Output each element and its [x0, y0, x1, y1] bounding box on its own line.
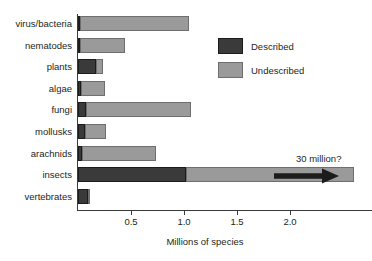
bar-row [0, 102, 372, 117]
bar-segment-undescribed [88, 189, 90, 204]
x-tick [237, 210, 238, 215]
x-tick-label: 0.5 [124, 216, 137, 227]
bar-row [0, 124, 372, 139]
bar-segment-described [78, 167, 186, 182]
x-axis-title-text: Millions of species [166, 236, 243, 247]
right-arrow-icon [274, 168, 340, 184]
legend-label-described: Described [251, 41, 294, 52]
bar-segment-undescribed [86, 102, 191, 117]
x-axis-line [77, 210, 372, 211]
bar-row [0, 59, 372, 74]
bar-segment-undescribed [96, 59, 103, 74]
x-tick [131, 210, 132, 215]
x-tick-label: 1.5 [230, 216, 243, 227]
bar-segment-undescribed [80, 16, 189, 31]
bar-segment-undescribed [82, 146, 156, 161]
bar-row [0, 189, 372, 204]
legend-swatch-undescribed-icon [218, 62, 243, 78]
x-tick-label: 1.0 [177, 216, 190, 227]
bar-segment-described [78, 189, 88, 204]
species-bar-chart: virus/bacterianematodesplantsalgaefungim… [0, 0, 372, 261]
legend-swatch-described-icon [218, 38, 243, 54]
bar-row [0, 81, 372, 96]
x-tick [290, 210, 291, 215]
bar-row [0, 16, 372, 31]
bar-segment-described [78, 124, 85, 139]
bar-segment-described [78, 59, 96, 74]
bar-segment-undescribed [81, 81, 105, 96]
bar-row [0, 38, 372, 53]
insects-annotation-label: 30 million? [296, 153, 341, 164]
bar-segment-undescribed [80, 38, 125, 53]
bar-segment-undescribed [85, 124, 105, 139]
legend-label-undescribed: Undescribed [251, 65, 304, 76]
x-axis-title: Millions of species [0, 236, 372, 247]
bar-segment-described [78, 102, 86, 117]
x-tick [184, 210, 185, 215]
x-tick-label: 2.0 [283, 216, 296, 227]
